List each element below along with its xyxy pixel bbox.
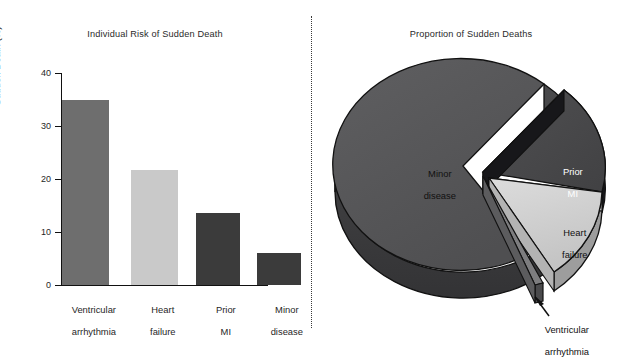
y-tick-mark-40 <box>55 73 61 74</box>
bar-ventricular-arrhythmia <box>62 100 109 286</box>
cat-line-2: failure <box>150 326 176 337</box>
x-category-label-minor-disease: Minor disease <box>245 293 313 348</box>
pie-label-line-1: Heart <box>563 227 586 238</box>
cat-line-1: Ventricular <box>72 304 116 315</box>
y-tick-mark-20 <box>55 179 61 180</box>
pie-annotation-ventricular-arrhythmia: Ventricular arrhythmia <box>517 313 601 361</box>
pie-label-minor-disease: Minor disease <box>401 157 463 212</box>
bar-chart-y-axis-label: Sudden Death (%) <box>0 6 2 126</box>
pie-label-heart-failure: Heart failure <box>539 216 595 271</box>
bar-chart-panel: Individual Risk of Sudden Death Sudden D… <box>0 0 311 344</box>
cat-line-2: disease <box>271 326 303 337</box>
bar-minor-disease <box>257 253 301 285</box>
y-tick-label-10: 10 <box>22 227 51 238</box>
y-tick-label-40: 40 <box>22 68 51 79</box>
y-tick-label-0: 0 <box>22 280 51 291</box>
cat-line-1: Heart <box>151 304 174 315</box>
pie-label-prior-mi: Prior MI <box>541 155 589 210</box>
bar-chart-x-axis <box>61 285 268 286</box>
x-category-label-heart-failure: Heart failure <box>120 293 190 348</box>
bar-heart-failure <box>131 170 178 286</box>
y-tick-mark-30 <box>55 126 61 127</box>
pie-label-line-1: Prior <box>563 166 583 177</box>
cat-line-1: Minor <box>275 304 298 315</box>
pie-chart-panel: Proportion of Sudden Deaths <box>311 0 624 344</box>
pie-label-line-2: MI <box>568 188 578 199</box>
x-category-label-prior-mi: Prior MI <box>185 293 251 348</box>
pie-label-line-2: disease <box>424 190 456 201</box>
cat-line-1: Prior <box>216 304 236 315</box>
y-tick-label-20: 20 <box>22 174 51 185</box>
y-tick-mark-10 <box>55 232 61 233</box>
pie-label-line-2: failure <box>562 249 588 260</box>
bar-chart-title: Individual Risk of Sudden Death <box>65 29 245 40</box>
y-tick-label-30: 30 <box>22 121 51 132</box>
bar-prior-mi <box>196 213 240 285</box>
cat-line-2: arrhythmia <box>72 326 116 337</box>
y-tick-mark-0 <box>55 285 61 286</box>
pie-label-line-1: Minor <box>428 168 451 179</box>
annotation-line-1: Ventricular <box>545 324 589 335</box>
annotation-line-2: arrhythmia <box>545 346 589 357</box>
cat-line-2: MI <box>221 326 231 337</box>
x-category-label-ventricular-arrhythmia: Ventricular arrhythmia <box>47 293 125 348</box>
